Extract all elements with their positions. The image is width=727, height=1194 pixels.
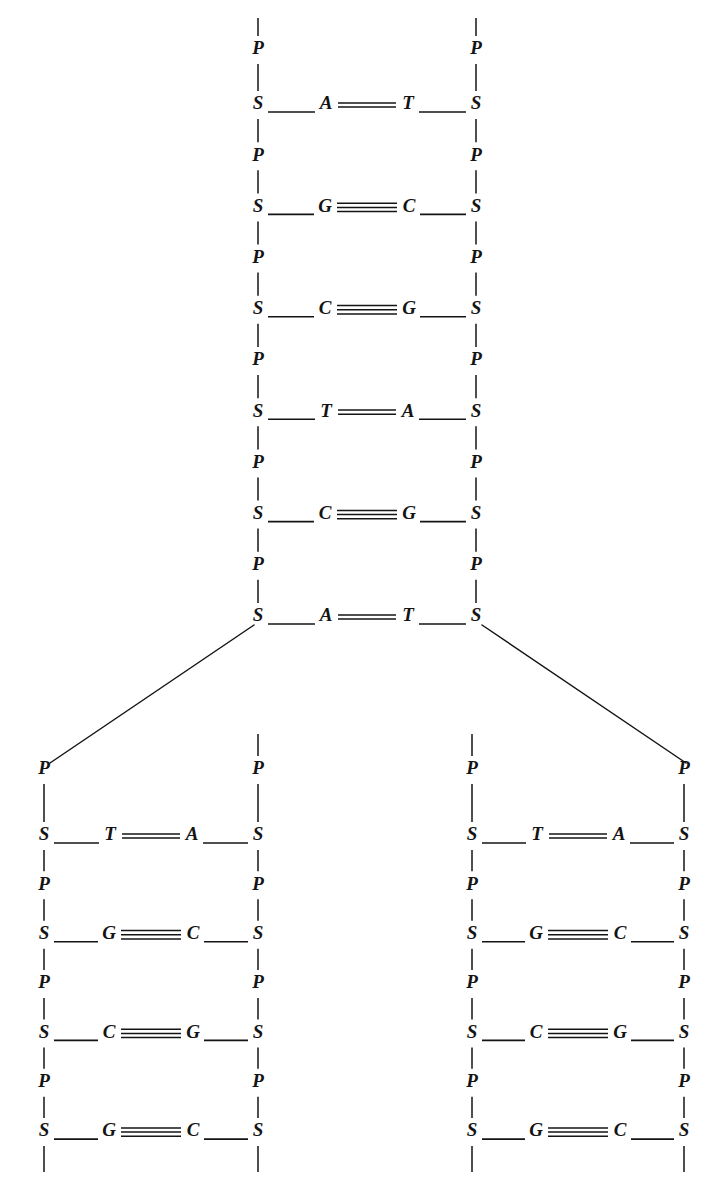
base-label-right: T [402,92,415,113]
sugar-label-left: S [253,400,264,421]
base-label-left: A [319,92,333,113]
phosphate-label-left-top: P [251,37,264,58]
phosphate-label-right-top: P [251,757,264,778]
phosphate-label-left: P [251,451,264,472]
sugar-label-left: S [253,195,264,216]
phosphate-label-left: P [251,553,264,574]
base-label-left: G [318,195,332,216]
base-label-right: G [186,1021,200,1042]
sugar-label-right: S [253,823,264,844]
base-label-left: G [529,922,543,943]
base-label-left: C [319,297,332,318]
phosphate-label-left-top: P [37,757,50,778]
phosphate-label-left: P [37,1070,50,1091]
sugar-label-left: S [253,297,264,318]
sugar-label-right: S [471,400,482,421]
sugar-label-left: S [253,604,264,625]
sugar-label-right: S [679,823,690,844]
phosphate-label-right: P [677,873,690,894]
phosphate-label-left: P [465,873,478,894]
sugar-label-left: S [253,92,264,113]
sugar-label-left: S [39,823,50,844]
phosphate-label-left: P [37,873,50,894]
sugar-label-right: S [679,922,690,943]
phosphate-label-right-top: P [469,37,482,58]
base-label-right: A [185,823,199,844]
base-label-left: T [104,823,117,844]
phosphate-label-left: P [251,246,264,267]
base-label-left: C [319,502,332,523]
diagram-background [0,0,727,1194]
sugar-label-left: S [253,502,264,523]
base-label-right: G [613,1021,627,1042]
phosphate-label-right: P [469,348,482,369]
base-label-right: A [612,823,626,844]
sugar-label-right: S [471,502,482,523]
base-label-right: T [402,604,415,625]
base-label-left: G [102,1119,116,1140]
phosphate-label-right: P [469,451,482,472]
base-label-left: G [102,922,116,943]
sugar-label-left: S [467,922,478,943]
base-label-right: G [402,297,416,318]
sugar-label-right: S [679,1021,690,1042]
phosphate-label-right: P [677,1070,690,1091]
phosphate-label-right: P [251,971,264,992]
phosphate-label-left: P [465,971,478,992]
sugar-label-right: S [471,195,482,216]
phosphate-label-left: P [251,144,264,165]
base-label-left: G [529,1119,543,1140]
sugar-label-left: S [467,823,478,844]
sugar-label-left: S [39,922,50,943]
base-label-left: A [319,604,333,625]
sugar-label-right: S [253,1021,264,1042]
sugar-label-right: S [253,922,264,943]
sugar-label-left: S [39,1021,50,1042]
phosphate-label-left: P [251,348,264,369]
base-label-right: C [614,1119,627,1140]
sugar-label-right: S [679,1119,690,1140]
base-label-left: C [530,1021,543,1042]
sugar-label-left: S [39,1119,50,1140]
sugar-label-right: S [253,1119,264,1140]
phosphate-label-right: P [251,873,264,894]
phosphate-label-right: P [469,246,482,267]
phosphate-label-right: P [251,1070,264,1091]
base-label-right: C [614,922,627,943]
base-label-right: C [187,1119,200,1140]
phosphate-label-right: P [677,971,690,992]
base-label-right: A [401,400,415,421]
sugar-label-left: S [467,1119,478,1140]
base-label-right: G [402,502,416,523]
base-label-left: T [531,823,544,844]
base-label-right: C [187,922,200,943]
sugar-label-right: S [471,604,482,625]
phosphate-label-right: P [469,144,482,165]
base-label-right: C [403,195,416,216]
base-label-left: C [103,1021,116,1042]
base-label-left: T [320,400,333,421]
phosphate-label-left: P [37,971,50,992]
dna-diagram-canvas: PPSSATPPSSGCPPSSCGPPSSTAPPSSCGPPSSAT PPS… [0,0,727,1194]
phosphate-label-left: P [465,1070,478,1091]
phosphate-label-left-top: P [465,757,478,778]
dna-replication-diagram: PPSSATPPSSGCPPSSCGPPSSTAPPSSCGPPSSAT PPS… [0,0,727,1194]
phosphate-label-right-top: P [677,757,690,778]
sugar-label-right: S [471,92,482,113]
sugar-label-left: S [467,1021,478,1042]
sugar-label-right: S [471,297,482,318]
phosphate-label-right: P [469,553,482,574]
